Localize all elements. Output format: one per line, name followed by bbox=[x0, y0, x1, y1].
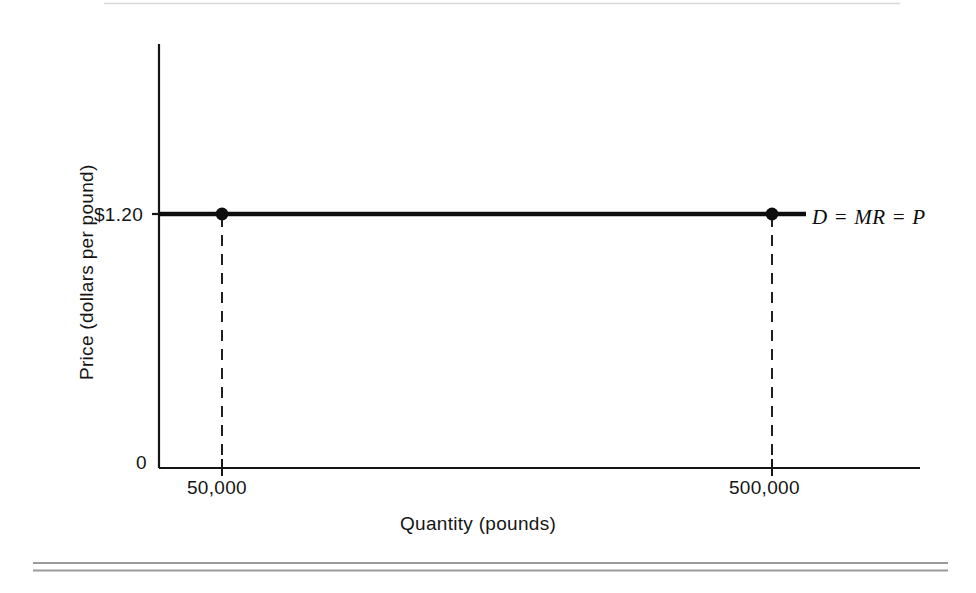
x-axis-tick-label-50000: 50,000 bbox=[187, 477, 247, 499]
x-axis-title: Quantity (pounds) bbox=[400, 513, 556, 535]
x-axis-tick-label-500000: 500,000 bbox=[729, 477, 800, 499]
data-point-50000 bbox=[216, 208, 229, 221]
demand-curve-label: D = MR = P bbox=[812, 205, 926, 230]
data-point-500000 bbox=[766, 208, 779, 221]
chart-canvas bbox=[0, 0, 976, 593]
y-axis-tick-label-price: $1.20 bbox=[94, 204, 143, 226]
origin-label: 0 bbox=[136, 452, 147, 474]
figure-root: $1.20 0 50,000 500,000 Quantity (pounds)… bbox=[0, 0, 976, 593]
y-axis-title: Price (dollars per pound) bbox=[76, 164, 98, 380]
